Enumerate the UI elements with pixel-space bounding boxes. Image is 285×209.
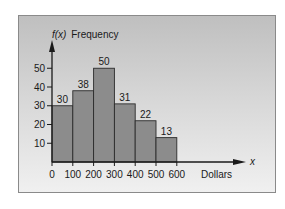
- histogram-bar: [156, 138, 177, 162]
- bar-value-label: 38: [78, 79, 90, 90]
- x-tick-label: 300: [106, 169, 123, 180]
- histogram-bar: [73, 91, 94, 162]
- x-tick-label: 400: [127, 169, 144, 180]
- x-ticks-group: 0100200300400500600: [49, 162, 185, 180]
- y-tick-label: 10: [34, 138, 46, 149]
- y-tick-label: 50: [34, 63, 46, 74]
- histogram-bar: [135, 121, 156, 162]
- bar-value-label: 50: [98, 56, 110, 67]
- y-axis-func: f(x): [52, 29, 66, 40]
- bar-value-label: 31: [119, 92, 131, 103]
- x-axis-label: Dollars: [201, 169, 232, 180]
- x-tick-label: 600: [168, 169, 185, 180]
- histogram-chart: 303850312213 1020304050 0100200300400500…: [0, 0, 285, 209]
- x-tick-label: 0: [49, 169, 55, 180]
- histogram-bar: [114, 104, 135, 162]
- bar-value-label: 30: [57, 94, 69, 105]
- histogram-bar: [94, 68, 115, 162]
- bar-value-label: 22: [140, 109, 152, 120]
- bar-value-label: 13: [161, 126, 173, 137]
- y-axis-label: f(x) Frequency: [52, 29, 118, 40]
- bars-group: [52, 68, 177, 162]
- x-tick-label: 100: [64, 169, 81, 180]
- x-tick-label: 200: [85, 169, 102, 180]
- x-tick-label: 500: [148, 169, 165, 180]
- y-tick-label: 20: [34, 119, 46, 130]
- histogram-bar: [52, 106, 73, 162]
- x-axis-arrow-icon: [233, 159, 246, 165]
- y-tick-label: 40: [34, 82, 46, 93]
- y-axis-word: Frequency: [71, 29, 118, 40]
- y-tick-label: 30: [34, 100, 46, 111]
- y-axis-arrow-icon: [49, 40, 55, 52]
- y-ticks-group: 1020304050: [34, 63, 52, 149]
- x-axis-var: x: [249, 156, 256, 167]
